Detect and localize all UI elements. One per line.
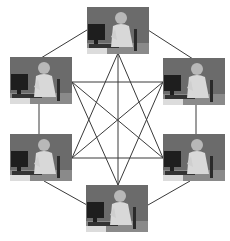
- node-upper-left: [10, 57, 72, 104]
- person-at-computer-icon: [163, 134, 225, 181]
- person-at-computer-icon: [86, 185, 148, 232]
- edge-lowerleft-bottom: [44, 181, 87, 205]
- edge-top-lowerleft: [72, 53, 118, 158]
- person-at-computer-icon: [10, 57, 72, 104]
- edge-bottom-upperright: [118, 82, 163, 185]
- node-bottom: [86, 185, 148, 232]
- person-at-computer-icon: [163, 58, 225, 105]
- edge-top-lowerright: [118, 53, 163, 158]
- person-at-computer-icon: [87, 7, 149, 54]
- node-top: [87, 7, 149, 54]
- person-at-computer-icon: [10, 134, 72, 181]
- node-lower-left: [10, 134, 72, 181]
- network-diagram: [0, 0, 230, 241]
- node-lower-right: [163, 134, 225, 181]
- node-upper-right: [163, 58, 225, 105]
- edge-top-upperleft: [41, 30, 87, 58]
- edge-top-upperright: [148, 30, 193, 59]
- edge-lowerright-bottom: [148, 181, 190, 205]
- edge-bottom-upperleft: [72, 82, 118, 185]
